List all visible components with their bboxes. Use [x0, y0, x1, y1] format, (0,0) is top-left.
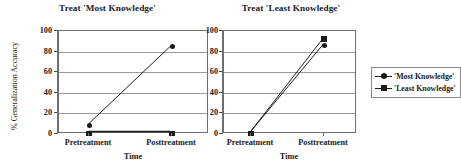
legend-label-least-knowledge: 'Least Knowledge': [394, 84, 456, 93]
series-line-most-knowledge-right: [251, 45, 323, 131]
plot-area-right: [223, 30, 356, 133]
chart-panel-least-knowledge: Treat 'Least Knowledge' 100 80 60 40 20 …: [196, 0, 386, 167]
y-tick-label-100-left: 100: [18, 26, 52, 35]
chart-title-right: Treat 'Least Knowledge': [196, 3, 386, 13]
y-tick-label-20-right: 20: [196, 108, 218, 117]
y-tick-label-80-left: 80: [18, 46, 52, 55]
chart-panel-most-knowledge: Treat 'Most Knowledge' % Generalization …: [0, 0, 215, 167]
y-tick-label-0-right: 0: [196, 129, 218, 138]
x-tick-mark-left: [88, 133, 89, 136]
x-axis-label-left: Time: [124, 152, 142, 161]
x-tick-mark-right: [250, 133, 251, 136]
series-layer-right: [224, 31, 355, 132]
y-tick-label-40-right: 40: [196, 87, 218, 96]
legend-label-most-knowledge: 'Most Knowledge': [394, 72, 454, 81]
legend-marker-square-icon: [375, 83, 392, 93]
x-tick-label-posttreatment-right: Posttreatment: [298, 138, 347, 147]
y-tick-label-40-left: 40: [18, 87, 52, 96]
series-line-most-knowledge-left: [89, 46, 171, 124]
legend-item-most-knowledge: 'Most Knowledge': [375, 70, 456, 82]
x-tick-label-pretreatment-left: Pretreatment: [65, 138, 112, 147]
y-tick-label-60-right: 60: [196, 67, 218, 76]
plot-area-left: [58, 30, 208, 133]
x-axis-label-right: Time: [280, 152, 298, 161]
x-tick-mark-right: [323, 133, 324, 136]
legend-marker-circle-icon: [375, 71, 392, 81]
x-tick-mark-left: [171, 133, 172, 136]
data-point-most-knowledge-post-left: [170, 44, 175, 49]
x-tick-label-pretreatment-right: Pretreatment: [227, 138, 274, 147]
chart-title-left: Treat 'Most Knowledge': [0, 3, 215, 13]
y-tick-label-80-right: 80: [196, 46, 218, 55]
y-tick-label-60-left: 60: [18, 67, 52, 76]
legend-item-least-knowledge: 'Least Knowledge': [375, 82, 456, 94]
x-tick-label-posttreatment-left: Posttreatment: [146, 138, 195, 147]
y-tick-label-100-right: 100: [196, 26, 218, 35]
data-point-most-knowledge-pre-left: [87, 123, 92, 128]
series-layer-left: [59, 31, 207, 132]
data-point-most-knowledge-post-right: [322, 43, 327, 48]
y-tick-label-20-left: 20: [18, 108, 52, 117]
chart-legend: 'Most Knowledge' 'Least Knowledge': [371, 67, 461, 98]
y-tick-label-0-left: 0: [18, 129, 52, 138]
data-point-least-knowledge-post-right: [321, 36, 327, 42]
series-line-least-knowledge-right: [251, 39, 323, 131]
